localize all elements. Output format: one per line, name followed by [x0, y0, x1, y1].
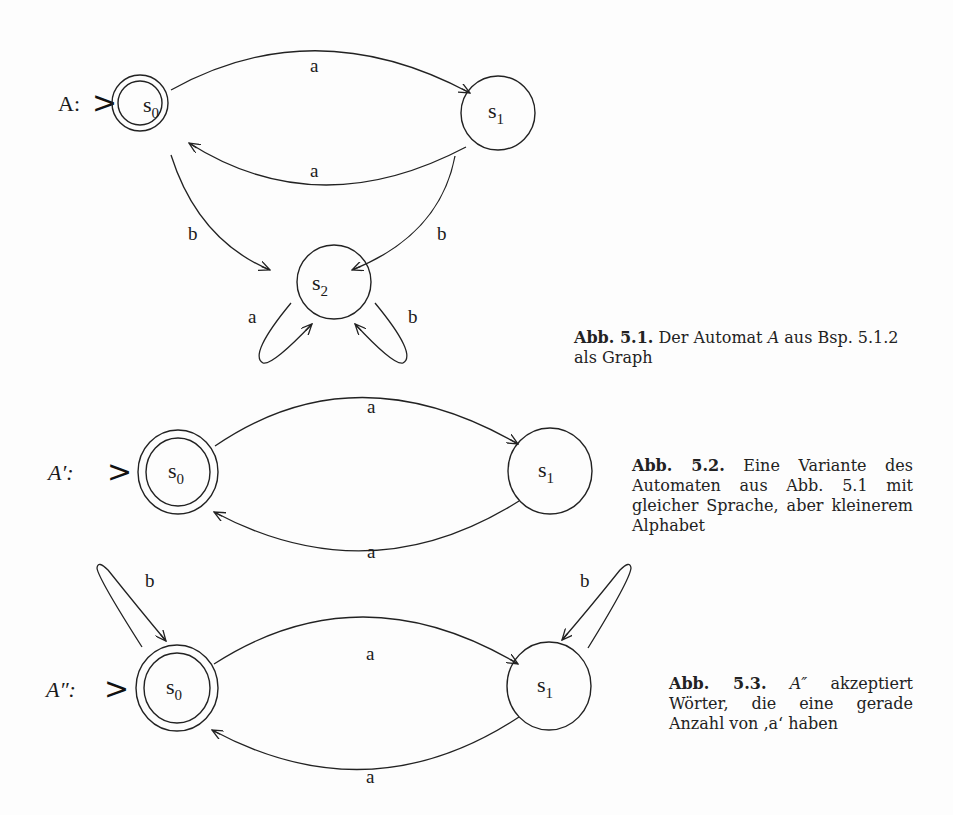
edge-label: a [310, 55, 319, 76]
caption-number: Abb. 5.2. [632, 456, 725, 475]
figure-5-3-graph: A″: > s0 s1 a a b b [44, 564, 631, 787]
edge-s0-loop-b [97, 564, 166, 647]
textbook-page: A: > s0 s1 s2 a a b b a [0, 0, 953, 815]
automaton-label: A′: [46, 460, 74, 485]
automaton-label: A: [58, 91, 80, 116]
automaton-label: A″: [44, 677, 76, 702]
caption-figure-5-3: Abb. 5.3. A″ akzeptiert Wörter, die eine… [669, 674, 913, 734]
svg-text:s0: s0 [143, 92, 159, 121]
edge-label: a [366, 766, 375, 787]
start-arrow-icon: > [92, 85, 117, 120]
svg-text:s1: s1 [538, 457, 554, 486]
svg-text:s0: s0 [166, 674, 182, 703]
state-s0: s0 [136, 645, 218, 731]
edge-s1-s0-a [189, 143, 466, 185]
state-s1: s1 [507, 642, 591, 730]
state-s0: s0 [112, 75, 168, 131]
edge-label: a [366, 643, 375, 664]
state-s0: s0 [138, 430, 218, 514]
edge-s0-s2-b [171, 155, 270, 270]
figure-5-1-graph: A: > s0 s1 s2 a a b b a [58, 51, 535, 363]
caption-number: Abb. 5.3. [669, 674, 767, 693]
svg-text:s1: s1 [537, 672, 553, 701]
svg-text:s1: s1 [488, 98, 504, 127]
svg-text:s0: s0 [168, 458, 184, 487]
edge-label: a [310, 160, 319, 181]
start-arrow-icon: > [104, 671, 129, 706]
edge-label: a [248, 306, 257, 327]
caption-number: Abb. 5.1. [574, 328, 653, 347]
edge-label: a [367, 541, 376, 562]
svg-text:s2: s2 [312, 270, 328, 299]
edge-label: b [408, 306, 418, 327]
edge-s0-s1-a [171, 51, 470, 93]
edge-s2-loop-a [259, 303, 312, 363]
edge-label: b [188, 223, 198, 244]
start-arrow-icon: > [107, 454, 132, 489]
edge-label: b [145, 570, 155, 591]
caption-figure-5-1: Abb. 5.1. Der Automat A aus Bsp. 5.1.2 a… [574, 328, 914, 368]
state-s2: s2 [297, 245, 371, 319]
edge-label: a [367, 396, 376, 417]
edge-s1-loop-b [562, 564, 631, 648]
state-s1: s1 [461, 76, 535, 150]
figure-5-2-graph: A′: > s0 s1 a a [46, 396, 592, 562]
state-s1: s1 [508, 428, 592, 514]
edge-label: b [437, 223, 447, 244]
edge-label: b [580, 570, 590, 591]
edge-s1-s0-a [212, 717, 519, 769]
edge-s2-loop-b [355, 303, 407, 363]
caption-figure-5-2: Abb. 5.2. Eine Variante des Automaten au… [632, 456, 913, 536]
